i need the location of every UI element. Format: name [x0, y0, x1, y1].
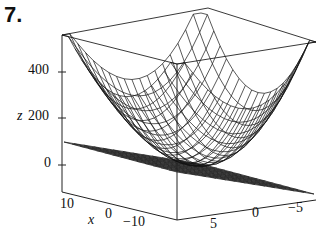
x-tick-neg10: −10 [123, 214, 145, 228]
z-tick-200: 200 [28, 108, 49, 124]
x-axis-label: x [88, 212, 94, 228]
y-tick-5: 5 [210, 216, 217, 228]
z-axis-label: z [17, 108, 22, 124]
z-tick-400: 400 [28, 62, 49, 78]
figure: 7. 400 200 0 z 10 0 −10 x 5 0 −5 [0, 0, 318, 228]
y-tick-neg5: −5 [288, 200, 303, 216]
y-tick-0: 0 [252, 205, 259, 221]
x-tick-10: 10 [60, 196, 74, 212]
z-tick-0: 0 [44, 155, 51, 171]
x-tick-0: 0 [105, 206, 112, 222]
